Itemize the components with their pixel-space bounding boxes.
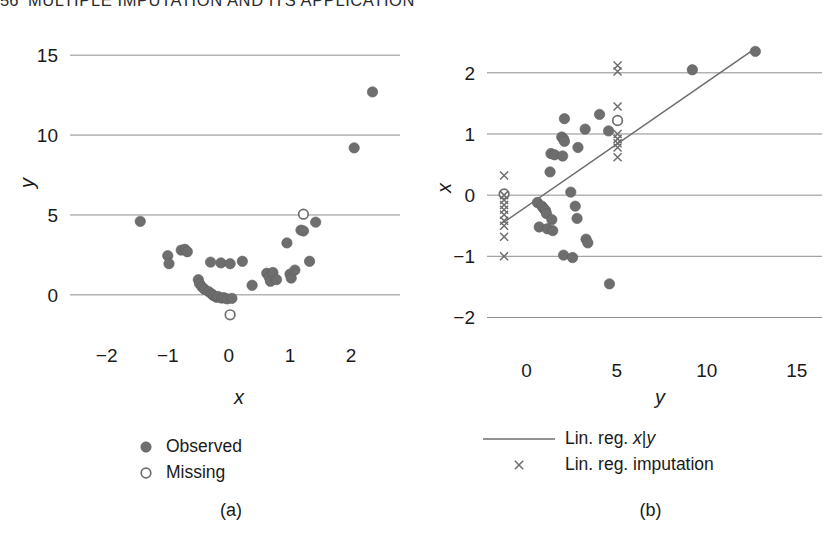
data-point-observed bbox=[304, 256, 314, 266]
data-point-observed bbox=[271, 274, 281, 284]
panel-b: −2−1012051015xyLin. reg. x|yLin. reg. im… bbox=[419, 0, 837, 539]
data-point-observed bbox=[557, 151, 567, 161]
series-lin-reg-x-y bbox=[503, 48, 755, 222]
gridlines bbox=[487, 73, 822, 318]
legend-label: Lin. reg. x|y bbox=[565, 428, 656, 448]
data-point-observed bbox=[548, 225, 558, 235]
series-observed bbox=[135, 87, 378, 304]
data-point-observed bbox=[216, 258, 226, 268]
data-point-observed bbox=[205, 257, 215, 267]
legend-marker-missing bbox=[141, 468, 151, 478]
data-point-missing bbox=[225, 310, 235, 320]
data-point-observed bbox=[164, 258, 174, 268]
legend: ObservedMissing bbox=[141, 436, 242, 482]
data-point-observed bbox=[298, 226, 308, 236]
data-point-missing bbox=[299, 209, 309, 219]
panel-caption: (a) bbox=[220, 500, 242, 520]
y-tick-label: 0 bbox=[47, 285, 58, 306]
data-point-observed bbox=[227, 293, 237, 303]
data-point-observed bbox=[547, 214, 557, 224]
data-point-imputed bbox=[614, 102, 622, 110]
x-tick-label: 1 bbox=[285, 345, 296, 366]
series-observed bbox=[532, 46, 760, 289]
x-axis-title: x bbox=[233, 386, 245, 408]
y-tick-label: 10 bbox=[37, 125, 58, 146]
y-tick-label: 15 bbox=[37, 45, 58, 66]
scatter-plot-b: −2−1012051015xyLin. reg. x|yLin. reg. im… bbox=[419, 0, 837, 539]
data-point-observed bbox=[135, 216, 145, 226]
legend-marker-observed bbox=[141, 442, 151, 452]
data-point-observed bbox=[282, 238, 292, 248]
panel-a: 051015−2−1012yxObservedMissing(a) bbox=[0, 0, 418, 539]
y-tick-label: 2 bbox=[464, 63, 475, 84]
data-point-observed bbox=[559, 113, 569, 123]
data-point-observed bbox=[573, 142, 583, 152]
panel-caption: (b) bbox=[640, 500, 662, 520]
x-tick-label: −2 bbox=[96, 345, 118, 366]
legend-label: Missing bbox=[166, 462, 225, 482]
data-point-observed bbox=[559, 136, 569, 146]
data-point-observed bbox=[603, 126, 613, 136]
x-tick-label: −1 bbox=[157, 345, 179, 366]
legend-label: Lin. reg. imputation bbox=[565, 454, 714, 474]
series-missing bbox=[225, 209, 308, 319]
y-axis-title: x bbox=[433, 182, 455, 194]
data-point-observed bbox=[247, 280, 257, 290]
data-point-observed bbox=[367, 87, 377, 97]
data-point-observed bbox=[580, 124, 590, 134]
data-point-imputed bbox=[500, 233, 508, 241]
data-point-imputed bbox=[500, 172, 508, 180]
scatter-plot-a: 051015−2−1012yxObservedMissing(a) bbox=[0, 0, 418, 539]
y-tick-label: −1 bbox=[453, 246, 475, 267]
legend: Lin. reg. x|yLin. reg. imputation bbox=[483, 428, 714, 474]
x-tick-label: 2 bbox=[346, 345, 357, 366]
x-tick-labels: −2−1012 bbox=[96, 345, 357, 366]
data-point-observed bbox=[545, 167, 555, 177]
gridlines bbox=[70, 55, 400, 295]
figure-container: 56 MULTIPLE IMPUTATION AND ITS APPLICATI… bbox=[0, 0, 837, 539]
data-point-observed bbox=[566, 187, 576, 197]
legend-label: Observed bbox=[166, 436, 242, 456]
data-point-observed bbox=[567, 252, 577, 262]
data-point-imputed bbox=[614, 68, 622, 76]
y-tick-label: −2 bbox=[453, 307, 475, 328]
x-tick-label: 10 bbox=[696, 360, 717, 381]
y-tick-labels: −2−1012 bbox=[453, 63, 475, 329]
x-axis-title: y bbox=[653, 386, 666, 408]
x-tick-label: 0 bbox=[224, 345, 235, 366]
data-point-observed bbox=[570, 201, 580, 211]
regression-line bbox=[503, 48, 755, 222]
data-point-missing bbox=[613, 116, 623, 126]
data-point-observed bbox=[290, 265, 300, 275]
y-tick-label: 0 bbox=[464, 185, 475, 206]
y-tick-labels: 051015 bbox=[37, 45, 58, 306]
data-point-observed bbox=[182, 247, 192, 257]
x-tick-label: 15 bbox=[786, 360, 807, 381]
y-axis-title: y bbox=[16, 177, 38, 190]
y-tick-label: 5 bbox=[47, 205, 58, 226]
data-point-imputed bbox=[614, 153, 622, 161]
data-point-observed bbox=[604, 279, 614, 289]
y-tick-label: 1 bbox=[464, 124, 475, 145]
legend-marker-cross bbox=[515, 461, 523, 469]
x-tick-label: 5 bbox=[611, 360, 622, 381]
x-tick-labels: 051015 bbox=[521, 360, 807, 381]
data-point-observed bbox=[572, 213, 582, 223]
data-point-observed bbox=[310, 217, 320, 227]
data-point-observed bbox=[237, 256, 247, 266]
x-tick-label: 0 bbox=[521, 360, 532, 381]
data-point-observed bbox=[349, 143, 359, 153]
data-point-observed bbox=[583, 238, 593, 248]
data-point-observed bbox=[225, 258, 235, 268]
data-point-observed bbox=[687, 65, 697, 75]
data-point-observed bbox=[594, 109, 604, 119]
